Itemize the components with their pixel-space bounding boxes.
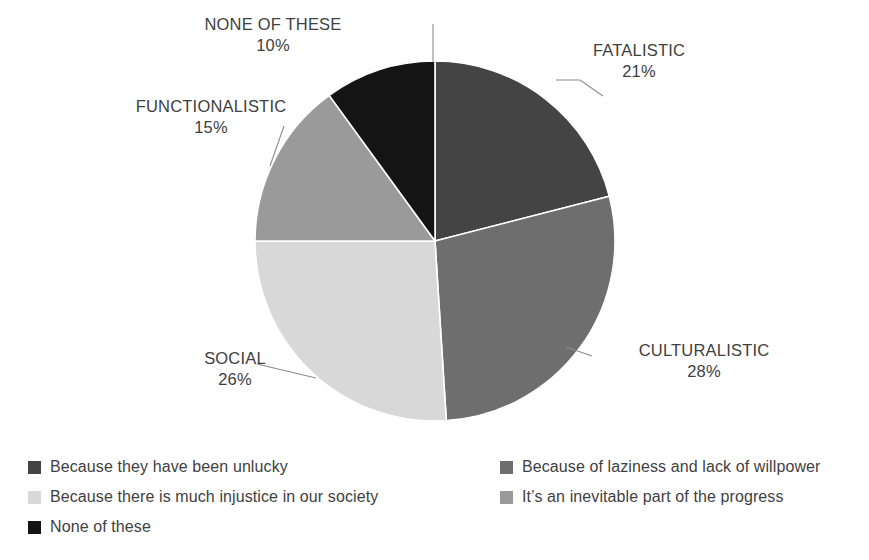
legend-item-label: None of these: [50, 518, 151, 536]
legend-item[interactable]: It’s an inevitable part of the progress: [500, 482, 856, 512]
legend-item[interactable]: Because of laziness and lack of willpowe…: [500, 452, 856, 482]
callout-functionalistic: FUNCTIONALISTIC 15%: [100, 96, 322, 138]
legend-swatch-icon: [28, 491, 41, 504]
callout-social-category: SOCIAL: [160, 348, 310, 369]
legend-item[interactable]: None of these: [28, 512, 468, 542]
callout-social: SOCIAL 26%: [160, 348, 310, 390]
legend-item-label: Because they have been unlucky: [50, 458, 288, 476]
pie-slice-social[interactable]: [255, 241, 446, 421]
legend-item-label: It’s an inevitable part of the progress: [522, 488, 784, 506]
callout-none-of-these-category: NONE OF THESE: [168, 14, 378, 35]
callout-fatalistic-percent: 21%: [548, 61, 730, 82]
callout-culturalistic: CULTURALISTIC 28%: [598, 340, 810, 382]
callout-functionalistic-category: FUNCTIONALISTIC: [100, 96, 322, 117]
callout-fatalistic: FATALISTIC 21%: [548, 40, 730, 82]
legend-column-right: Because of laziness and lack of willpowe…: [500, 452, 856, 512]
legend-item-label: Because of laziness and lack of willpowe…: [522, 458, 820, 476]
legend-item[interactable]: Because they have been unlucky: [28, 452, 468, 482]
legend-swatch-icon: [28, 521, 41, 534]
callout-none-of-these-percent: 10%: [168, 35, 378, 56]
callout-social-percent: 26%: [160, 369, 310, 390]
legend-swatch-icon: [28, 461, 41, 474]
callout-fatalistic-category: FATALISTIC: [548, 40, 730, 61]
legend-item-label: Because there is much injustice in our s…: [50, 488, 378, 506]
callout-none-of-these: NONE OF THESE 10%: [168, 14, 378, 56]
callout-culturalistic-percent: 28%: [598, 361, 810, 382]
callout-functionalistic-percent: 15%: [100, 117, 322, 138]
legend-swatch-icon: [500, 491, 513, 504]
legend-column-left: Because they have been unluckyBecause th…: [28, 452, 468, 542]
leader-line-fatalistic: [556, 80, 603, 96]
legend-swatch-icon: [500, 461, 513, 474]
callout-culturalistic-category: CULTURALISTIC: [598, 340, 810, 361]
pie-chart: NONE OF THESE 10% FUNCTIONALISTIC 15% FA…: [0, 0, 869, 560]
legend-item[interactable]: Because there is much injustice in our s…: [28, 482, 468, 512]
